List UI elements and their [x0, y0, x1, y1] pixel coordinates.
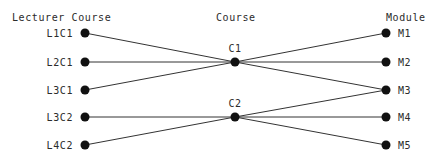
node-l3c1[interactable] [81, 86, 90, 95]
node-l2c1[interactable] [81, 58, 90, 67]
edge-l4c2-to-c2 [85, 117, 235, 145]
edge-c1-to-m1 [235, 33, 386, 62]
node-m1[interactable] [382, 29, 391, 38]
node-label-l1c1: L1C1 [47, 28, 73, 39]
edge-c1-to-m3 [235, 62, 386, 90]
node-label-m5: M5 [398, 140, 411, 151]
edge-c2-to-m5 [235, 117, 386, 145]
edge-c2-to-m3 [235, 90, 386, 117]
edge-layer [0, 0, 434, 162]
column-header-right: Module [386, 12, 426, 23]
node-l4c2[interactable] [81, 141, 90, 150]
node-c1[interactable] [231, 58, 240, 67]
node-c2[interactable] [231, 113, 240, 122]
node-label-c1: C1 [228, 43, 241, 54]
node-m3[interactable] [382, 86, 391, 95]
node-label-m3: M3 [398, 85, 411, 96]
node-label-m2: M2 [398, 57, 411, 68]
node-l1c1[interactable] [81, 29, 90, 38]
node-label-l3c2: L3C2 [47, 112, 73, 123]
edge-l1c1-to-c1 [85, 33, 235, 62]
node-label-l3c1: L3C1 [47, 85, 73, 96]
bipartite-mapping-diagram: Lecturer CourseCourseModule L1C1L2C1L3C1… [0, 0, 434, 162]
edge-l3c1-to-c1 [85, 62, 235, 90]
node-m5[interactable] [382, 141, 391, 150]
column-header-middle: Course [216, 12, 256, 23]
column-header-left: Lecturer Course [12, 12, 111, 23]
node-label-m1: M1 [398, 28, 411, 39]
node-l3c2[interactable] [81, 113, 90, 122]
node-m2[interactable] [382, 58, 391, 67]
node-label-c2: C2 [228, 98, 241, 109]
node-label-l2c1: L2C1 [47, 57, 73, 68]
node-label-m4: M4 [398, 112, 411, 123]
node-m4[interactable] [382, 113, 391, 122]
node-label-l4c2: L4C2 [47, 140, 73, 151]
